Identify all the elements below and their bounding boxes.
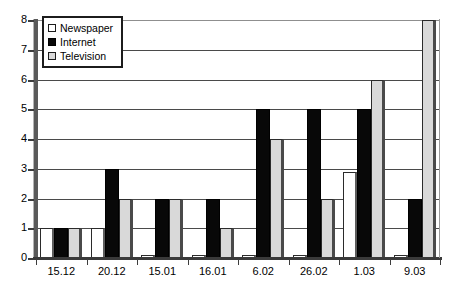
bar-group — [242, 20, 284, 258]
x-tick-label-15.01: 15.01 — [137, 266, 188, 277]
y-tick-mark-1 — [28, 228, 34, 230]
x-tick-mark-1 — [87, 259, 88, 265]
legend-swatch-newspaper — [48, 24, 56, 32]
y-tick-label-2: 2 — [5, 193, 27, 204]
x-tick-label-16.01: 16.01 — [188, 266, 239, 277]
x-tick-mark-8 — [440, 259, 441, 265]
legend-swatch-television — [48, 52, 56, 60]
x-tick-label-26.02: 26.02 — [289, 266, 340, 277]
y-tick-label-0: 0 — [5, 252, 27, 263]
bar-internet-15.01 — [155, 199, 169, 259]
legend-item-television[interactable]: Television — [48, 49, 117, 63]
y-tick-label-1: 1 — [5, 222, 27, 233]
y-tick-label-4: 4 — [5, 133, 27, 144]
x-tick-label-20.12: 20.12 — [87, 266, 138, 277]
legend-label-television: Television — [60, 51, 106, 62]
bar-television-16.01 — [220, 228, 234, 258]
bar-group — [293, 20, 335, 258]
x-tick-mark-3 — [188, 259, 189, 265]
y-tick-mark-4 — [28, 139, 34, 141]
x-tick-label-15.12: 15.12 — [36, 266, 87, 277]
bar-newspaper-1.03 — [343, 172, 357, 258]
x-tick-label-1.03: 1.03 — [339, 266, 390, 277]
x-tick-mark-6 — [339, 259, 340, 265]
bar-group — [141, 20, 183, 258]
y-tick-label-3: 3 — [5, 163, 27, 174]
y-tick-mark-3 — [28, 169, 34, 171]
y-tick-label-7: 7 — [5, 44, 27, 55]
legend-item-internet[interactable]: Internet — [48, 35, 117, 49]
bar-television-20.12 — [119, 199, 133, 259]
x-tick-mark-2 — [137, 259, 138, 265]
bar-internet-26.02 — [307, 109, 321, 258]
bar-television-9.03 — [422, 20, 436, 258]
y-tick-mark-5 — [28, 109, 34, 111]
chart-legend: NewspaperInternetTelevision — [42, 16, 123, 68]
bar-television-15.12 — [68, 228, 82, 258]
bar-internet-20.12 — [105, 169, 119, 258]
bar-newspaper-15.12 — [40, 228, 54, 258]
legend-item-newspaper[interactable]: Newspaper — [48, 21, 117, 35]
x-tick-mark-5 — [289, 259, 290, 265]
bar-internet-1.03 — [357, 109, 371, 258]
y-tick-mark-0 — [28, 258, 34, 260]
bar-group — [394, 20, 436, 258]
bar-newspaper-20.12 — [91, 228, 105, 258]
y-tick-label-8: 8 — [5, 14, 27, 25]
bar-internet-6.02 — [256, 109, 270, 258]
x-tick-label-9.03: 9.03 — [390, 266, 441, 277]
bar-group — [343, 20, 385, 258]
bar-internet-9.03 — [408, 199, 422, 259]
y-tick-label-6: 6 — [5, 74, 27, 85]
legend-swatch-internet — [48, 38, 56, 46]
legend-label-newspaper: Newspaper — [60, 23, 113, 34]
legend-label-internet: Internet — [60, 37, 96, 48]
x-tick-mark-0 — [36, 259, 37, 265]
plot-frame-right-edge — [439, 19, 440, 258]
bar-television-6.02 — [270, 139, 284, 258]
bar-television-15.01 — [169, 199, 183, 259]
y-tick-mark-8 — [28, 20, 34, 22]
y-tick-mark-7 — [28, 50, 34, 52]
x-tick-label-6.02: 6.02 — [238, 266, 289, 277]
y-tick-mark-2 — [28, 199, 34, 201]
bar-group — [192, 20, 234, 258]
x-tick-mark-7 — [390, 259, 391, 265]
bar-television-1.03 — [371, 80, 385, 259]
y-tick-mark-6 — [28, 80, 34, 82]
y-tick-label-5: 5 — [5, 103, 27, 114]
bar-chart: 012345678 15.1220.1215.0116.016.0226.021… — [0, 0, 451, 287]
bar-internet-16.01 — [206, 199, 220, 259]
bar-television-26.02 — [321, 199, 335, 259]
x-tick-mark-4 — [238, 259, 239, 265]
bar-internet-15.12 — [54, 228, 68, 258]
y-axis-labels: 012345678 — [0, 0, 27, 287]
